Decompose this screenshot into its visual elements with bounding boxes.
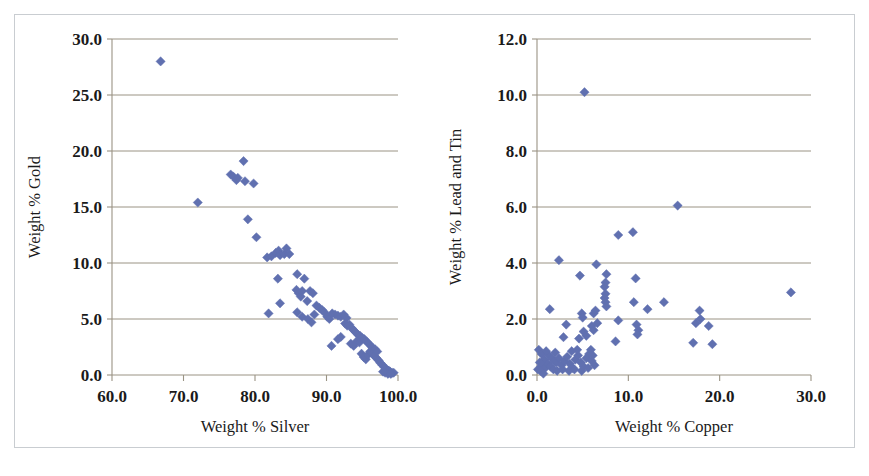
data-point (614, 316, 623, 325)
x-axis-title: Weight % Silver (201, 417, 310, 436)
gridlines-group (537, 39, 811, 375)
data-point (689, 338, 698, 347)
data-points-group (533, 88, 795, 379)
x-tick-label-90.0: 90.0 (312, 387, 342, 406)
gridlines-group (112, 39, 398, 375)
data-point (695, 306, 704, 315)
data-point (252, 233, 261, 242)
y-tick-label-12.0: 12.0 (497, 30, 527, 49)
y-tick-label-2.0: 2.0 (506, 310, 527, 329)
data-point (643, 305, 652, 314)
data-point (704, 321, 713, 330)
data-point (264, 309, 273, 318)
data-points-group (156, 57, 398, 379)
data-point (631, 274, 640, 283)
data-point (275, 299, 284, 308)
data-point (562, 320, 571, 329)
y-tick-label-10.0: 10.0 (72, 254, 102, 273)
x-tick-label-10.0: 10.0 (613, 387, 643, 406)
data-point (592, 260, 601, 269)
y-axis-title: Weight % Lead and Tin (446, 129, 465, 285)
x-tick-label-80.0: 80.0 (240, 387, 270, 406)
scatter-plot-leadtin-vs-copper: 0.02.04.06.08.010.012.00.010.020.030.0We… (435, 14, 855, 448)
data-point (300, 274, 309, 283)
figure-root: 0.05.010.015.020.025.030.060.070.080.090… (0, 0, 869, 476)
y-axis-title: Weight % Gold (25, 155, 44, 258)
data-point (629, 298, 638, 307)
data-point (575, 271, 584, 280)
y-tick-label-8.0: 8.0 (506, 142, 527, 161)
x-axis-title: Weight % Copper (615, 417, 733, 436)
y-tick-label-0.0: 0.0 (81, 366, 102, 385)
data-point (293, 270, 302, 279)
data-point (659, 298, 668, 307)
x-tick-label-100.0: 100.0 (379, 387, 417, 406)
y-tick-label-15.0: 15.0 (72, 198, 102, 217)
data-point (628, 228, 637, 237)
x-tick-label-60.0: 60.0 (97, 387, 127, 406)
data-point (239, 156, 248, 165)
data-point (273, 274, 282, 283)
y-tick-label-20.0: 20.0 (72, 142, 102, 161)
data-point (786, 288, 795, 297)
y-tick-label-10.0: 10.0 (497, 86, 527, 105)
data-point (249, 179, 258, 188)
y-tick-label-0.0: 0.0 (506, 366, 527, 385)
x-tick-label-30.0: 30.0 (796, 387, 826, 406)
x-tick-label-0.0: 0.0 (526, 387, 547, 406)
scatter-plot-gold-vs-silver: 0.05.010.015.020.025.030.060.070.080.090… (14, 14, 435, 448)
data-point (614, 230, 623, 239)
data-point (602, 270, 611, 279)
y-tick-label-4.0: 4.0 (506, 254, 527, 273)
data-point (545, 305, 554, 314)
chart-panel-gold-vs-silver: 0.05.010.015.020.025.030.060.070.080.090… (14, 14, 435, 448)
chart-panel-leadtin-vs-copper: 0.02.04.06.08.010.012.00.010.020.030.0We… (435, 14, 855, 448)
data-point (327, 341, 336, 350)
x-tick-label-70.0: 70.0 (169, 387, 199, 406)
data-point (708, 340, 717, 349)
y-tick-label-6.0: 6.0 (506, 198, 527, 217)
x-tick-label-20.0: 20.0 (705, 387, 735, 406)
data-point (611, 337, 620, 346)
data-point (156, 57, 165, 66)
y-tick-label-25.0: 25.0 (72, 86, 102, 105)
data-point (559, 333, 568, 342)
data-point (673, 201, 682, 210)
data-point (193, 198, 202, 207)
y-tick-label-30.0: 30.0 (72, 30, 102, 49)
data-point (243, 215, 252, 224)
y-tick-label-5.0: 5.0 (81, 310, 102, 329)
